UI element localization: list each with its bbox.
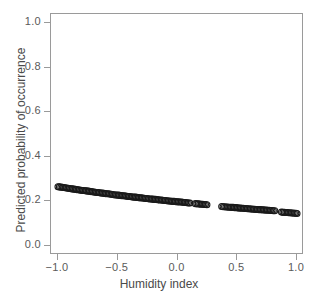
y-tick-mark xyxy=(44,67,50,68)
x-tick-label: −0.5 xyxy=(97,261,137,273)
x-tick-label: 0.0 xyxy=(157,261,197,273)
y-axis-title-container: Predicted probability of occurrence xyxy=(0,0,22,303)
x-tick-mark xyxy=(236,254,237,260)
y-tick-mark xyxy=(44,156,50,157)
y-axis-title: Predicted probability of occurrence xyxy=(14,35,28,245)
x-tick-label: 1.0 xyxy=(276,261,316,273)
x-tick-label: −1.0 xyxy=(37,261,77,273)
y-tick-mark xyxy=(44,22,50,23)
plot-panel xyxy=(50,13,303,254)
y-tick-mark xyxy=(44,245,50,246)
y-tick-mark xyxy=(44,111,50,112)
x-tick-mark xyxy=(177,254,178,260)
y-tick-mark xyxy=(44,200,50,201)
x-tick-mark xyxy=(117,254,118,260)
x-axis-title: Humidity index xyxy=(0,277,318,291)
data-point-layer xyxy=(51,14,304,255)
x-tick-label: 0.5 xyxy=(216,261,256,273)
scatter-plot-figure: −1.0−0.50.00.51.0 0.00.20.40.60.81.0 Hum… xyxy=(0,0,318,303)
x-tick-mark xyxy=(296,254,297,260)
x-tick-mark xyxy=(57,254,58,260)
